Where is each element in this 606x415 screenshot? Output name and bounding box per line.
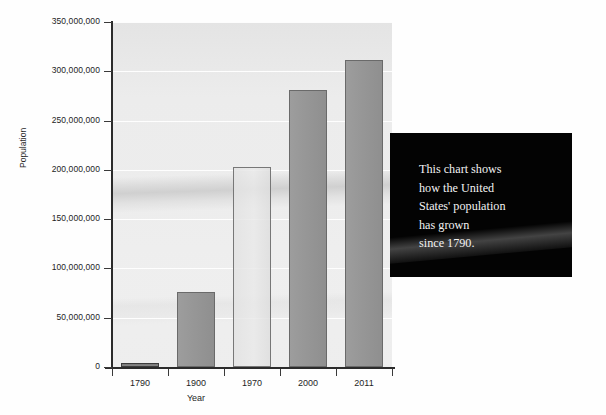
x-axis-line <box>105 367 395 369</box>
y-axis-tick-label: 250,000,000 <box>0 115 100 125</box>
callout-text: This chart shows how the United States' … <box>419 160 564 253</box>
y-axis-title: Population <box>18 128 28 168</box>
x-axis-tick-label: 1900 <box>166 378 226 388</box>
x-axis-tick <box>392 369 393 376</box>
y-axis-tick <box>104 268 112 269</box>
bar-1900 <box>177 292 215 367</box>
y-axis-line <box>111 21 113 368</box>
y-axis-tick-label: 50,000,000 <box>0 312 100 322</box>
y-axis-tick <box>104 219 112 220</box>
x-axis-tick <box>336 369 337 376</box>
bar-2011 <box>345 60 383 367</box>
y-axis-tick-label: 100,000,000 <box>0 262 100 272</box>
y-axis-tick-label: 350,000,000 <box>0 16 100 26</box>
y-axis-tick <box>104 170 112 171</box>
x-axis-tick <box>168 369 169 376</box>
plot-area <box>112 22 392 367</box>
chart-canvas: 050,000,000100,000,000150,000,000200,000… <box>0 0 606 415</box>
y-axis-tick-label: 300,000,000 <box>0 65 100 75</box>
callout-box: This chart shows how the United States' … <box>390 133 572 277</box>
x-axis-tick <box>112 369 113 376</box>
y-axis-tick-label: 200,000,000 <box>0 164 100 174</box>
y-axis-tick-label: 150,000,000 <box>0 213 100 223</box>
y-axis-tick <box>104 71 112 72</box>
x-axis-tick-label: 1790 <box>110 378 170 388</box>
x-axis-tick-label: 2011 <box>334 378 394 388</box>
x-axis-tick <box>224 369 225 376</box>
y-axis-tick <box>104 22 112 23</box>
y-axis-tick-label: 0 <box>0 361 100 371</box>
bar-2000 <box>289 90 327 367</box>
y-axis-tick <box>104 318 112 319</box>
bar-1970 <box>233 167 271 367</box>
y-axis-tick <box>104 121 112 122</box>
x-axis-tick <box>280 369 281 376</box>
x-axis-tick-label: 2000 <box>278 378 338 388</box>
x-axis-title: Year <box>0 393 392 403</box>
x-axis-tick-label: 1970 <box>222 378 282 388</box>
y-axis-tick <box>104 367 112 368</box>
gridline <box>112 22 392 23</box>
